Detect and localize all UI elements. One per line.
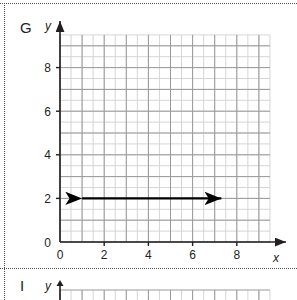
svg-text:2: 2 [101, 248, 108, 262]
svg-text:6: 6 [189, 248, 196, 262]
svg-text:0: 0 [44, 236, 51, 250]
svg-text:0: 0 [57, 248, 64, 262]
svg-text:8: 8 [44, 61, 51, 75]
svg-text:2: 2 [44, 192, 51, 206]
page-frame-top-border [0, 3, 297, 4]
axis-tick-labels: 0246802468 [44, 61, 240, 262]
panel-i-coordinate-grid-plot [0, 270, 297, 300]
coordinate-grid-plot: 0246802468 [0, 8, 297, 266]
svg-text:8: 8 [233, 248, 240, 262]
panel-i: I y [0, 270, 297, 300]
svg-text:4: 4 [145, 248, 152, 262]
svg-text:6: 6 [44, 105, 51, 119]
panel-g: G y x 0246802468 [0, 8, 297, 266]
svg-text:4: 4 [44, 148, 51, 162]
panel-i-grid-minor-lines [60, 290, 270, 300]
panel-i-grid-major-lines [60, 290, 270, 300]
axis-ticks [56, 68, 237, 246]
grid-minor-lines [60, 35, 270, 242]
grid-major-lines [60, 35, 270, 242]
panel-separator [0, 268, 297, 269]
